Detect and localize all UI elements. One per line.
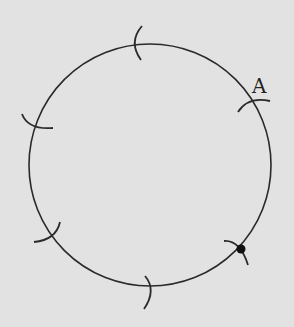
arc-mark-bottom-left bbox=[34, 222, 60, 242]
circle-construction-diagram: A bbox=[0, 0, 294, 327]
main-circle bbox=[29, 44, 271, 286]
marked-point bbox=[237, 245, 246, 254]
arc-mark-bottom-right bbox=[224, 241, 248, 265]
arc-mark-top bbox=[135, 26, 142, 60]
point-label-a: A bbox=[251, 74, 267, 98]
arc-mark-bottom bbox=[144, 276, 151, 309]
